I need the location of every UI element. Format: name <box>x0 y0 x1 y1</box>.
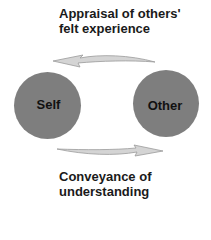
conveyance-arrow <box>57 145 163 156</box>
conveyance-label-line1: Conveyance of <box>59 169 151 184</box>
conveyance-label: Conveyance of understanding <box>59 169 151 199</box>
self-node: Self <box>14 72 81 139</box>
other-node: Other <box>133 70 199 137</box>
self-label: Self <box>37 97 61 112</box>
conveyance-label-line2: understanding <box>59 184 151 199</box>
appraisal-arrow <box>53 55 155 67</box>
other-label: Other <box>148 98 183 113</box>
